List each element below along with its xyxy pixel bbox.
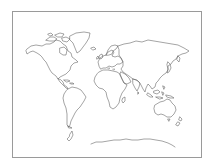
greenland-outline (70, 32, 90, 53)
north-america-outline (26, 40, 78, 79)
japan-outline (167, 62, 171, 73)
asia-outline (118, 40, 189, 92)
south-america-outline (63, 87, 86, 127)
tierra-del-fuego-outline (68, 126, 72, 128)
madagascar-outline (122, 97, 125, 103)
new-zealand-outline (176, 117, 182, 126)
world-map (0, 0, 213, 164)
tasmania-outline (168, 119, 170, 121)
africa-outline (94, 70, 127, 109)
india-outline (133, 79, 140, 91)
australia-outline (154, 99, 176, 117)
iceland-outline (91, 47, 96, 50)
sri-lanka-outline (138, 92, 139, 94)
hudson-bay-outline (60, 47, 67, 55)
mediterranean-islands-outline (108, 68, 115, 70)
antarctica-outline (91, 139, 175, 147)
antarctic-peninsula-outline (67, 131, 73, 141)
